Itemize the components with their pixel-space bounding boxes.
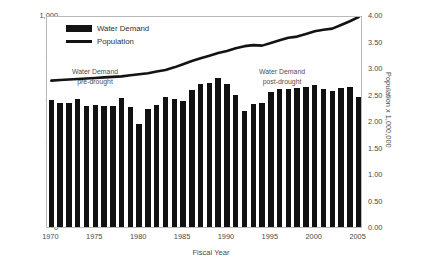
x-tick-1990: 1990: [206, 232, 246, 241]
bar-swatch-icon: [66, 25, 92, 32]
legend-label-water-demand: Water Demand: [97, 24, 149, 33]
x-tick-1985: 1985: [162, 232, 202, 241]
y-tick-right-4-00: 4.00: [368, 12, 408, 20]
x-tick-2005: 2005: [338, 232, 378, 241]
population-line: [47, 17, 362, 228]
x-tick-2000: 2000: [294, 232, 334, 241]
legend-label-population: Population: [97, 37, 134, 46]
line-swatch-icon: [66, 40, 92, 43]
x-tick-1970: 1970: [30, 232, 70, 241]
x-axis-title: Fiscal Year: [0, 248, 422, 257]
annotation-pre-line2: pre-drought: [72, 77, 118, 87]
y-tick-right-0-00: 0.00: [368, 224, 408, 232]
x-tick-1980: 1980: [118, 232, 158, 241]
chart-figure: 01002003004005006007008009001,000 0.000.…: [0, 0, 422, 273]
y-tick-right-3-50: 3.50: [368, 39, 408, 47]
y-tick-right-0-50: 0.50: [368, 198, 408, 206]
annotation-pre-line1: Water Demand: [72, 67, 118, 77]
annotation-post-drought: Water Demand post-drought: [259, 67, 305, 87]
legend-item-water-demand: Water Demand: [66, 22, 196, 35]
y-tick-right-1-00: 1.00: [368, 171, 408, 179]
x-tick-1995: 1995: [250, 232, 290, 241]
legend-item-population: Population: [66, 35, 196, 48]
annotation-pre-drought: Water Demand pre-drought: [72, 67, 118, 87]
y-axis-right-title: Population x 1,000,000: [384, 72, 393, 148]
annotation-post-line1: Water Demand: [259, 67, 305, 77]
legend: Water Demand Population: [66, 22, 196, 48]
annotation-post-line2: post-drought: [259, 77, 305, 87]
x-tick-1975: 1975: [74, 232, 114, 241]
